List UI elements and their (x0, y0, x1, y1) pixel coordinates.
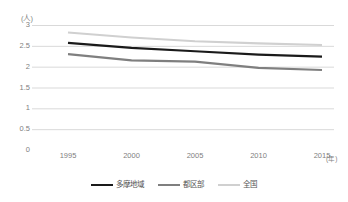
legend-item[interactable]: 多摩地域 (91, 181, 144, 189)
y-axis-tick-label: 2 (4, 63, 30, 71)
chart-legend: 多摩地域都区部全国 (0, 181, 348, 189)
legend-item[interactable]: 都区部 (158, 181, 204, 189)
y-axis-tick-label: 2.5 (4, 42, 30, 50)
y-axis-tick-label: 0 (4, 146, 30, 154)
x-axis-tick-label: 1995 (46, 152, 90, 160)
x-axis-tick-label: 2010 (237, 152, 281, 160)
y-axis-tick-label: 0.5 (4, 125, 30, 133)
x-axis-tick-label: 2015 (300, 152, 344, 160)
x-axis-tick-labels: 19952000200520102015 (32, 152, 334, 166)
y-axis-tick-label: 1 (4, 104, 30, 112)
y-axis-tick-label: 3 (4, 21, 30, 29)
legend-item[interactable]: 全国 (218, 181, 257, 189)
chart-title (0, 0, 348, 4)
series-line (68, 33, 322, 46)
x-axis-tick-label: 2000 (110, 152, 154, 160)
legend-swatch-icon (158, 184, 180, 186)
legend-label: 多摩地域 (116, 181, 144, 189)
plot-svg (32, 25, 334, 150)
legend-label: 全国 (243, 181, 257, 189)
series-lines (68, 33, 322, 71)
x-axis-tick-label: 2005 (173, 152, 217, 160)
legend-label: 都区部 (183, 181, 204, 189)
line-chart: (人) 32.521.510.50 19952000200520102015 (… (0, 0, 348, 202)
y-axis-tick-label: 1.5 (4, 84, 30, 92)
legend-swatch-icon (218, 184, 240, 186)
legend-swatch-icon (91, 184, 113, 186)
x-axis-unit-label: (年) (326, 153, 337, 163)
y-axis-tick-labels: 32.521.510.50 (0, 0, 30, 202)
plot-area (32, 25, 334, 150)
